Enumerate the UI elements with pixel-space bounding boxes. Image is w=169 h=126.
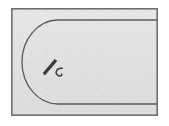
figure-root: Rounded-end plate outline with handwritt…	[0, 0, 169, 126]
plate-fill	[11, 8, 158, 116]
line-drawing-canvas	[0, 0, 169, 126]
